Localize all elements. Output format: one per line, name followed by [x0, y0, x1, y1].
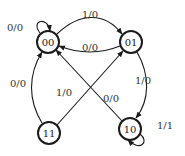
label-00-01: 1/0 [82, 9, 98, 20]
label-11-01: 1/0 [56, 87, 72, 98]
state-label: 00 [42, 37, 55, 48]
label-10-10: 1/1 [157, 120, 173, 131]
edge-10-00 [56, 50, 122, 121]
state-diagram: 0/0 1/0 0/0 1/0 0/0 1/0 0/0 1/1 00 01 10… [0, 0, 185, 156]
edge-11-00 [32, 52, 43, 123]
state-label: 01 [125, 37, 138, 48]
state-label: 10 [124, 124, 137, 135]
state-01: 01 [120, 31, 142, 53]
state-11: 11 [38, 122, 60, 144]
state-00: 00 [37, 31, 59, 53]
label-10-00: 0/0 [103, 93, 119, 104]
edge-00-01 [57, 18, 122, 35]
label-11-00: 0/0 [10, 78, 26, 89]
state-10: 10 [119, 118, 141, 140]
label-00-00: 0/0 [7, 22, 23, 33]
label-01-00: 0/0 [82, 42, 98, 53]
label-01-10: 1/0 [135, 75, 151, 86]
state-label: 11 [43, 128, 56, 139]
